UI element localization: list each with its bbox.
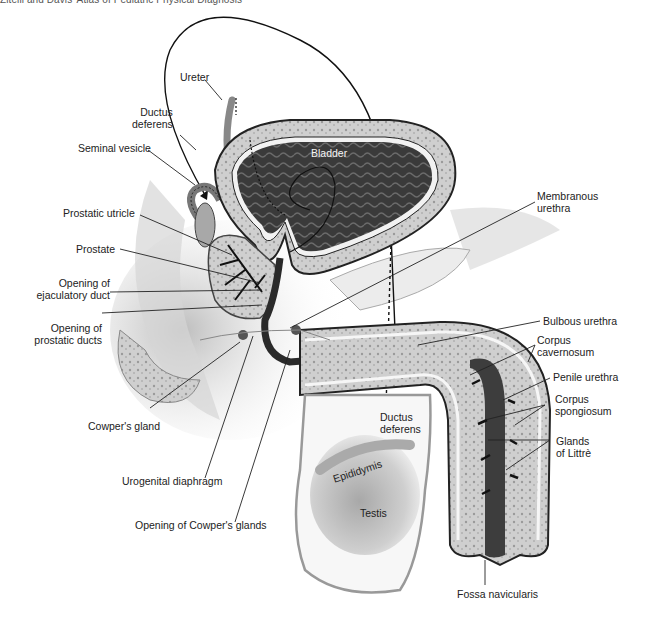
label-bladder: Bladder — [311, 147, 347, 159]
label-ductus-deferens-top: Ductusdeferens — [132, 106, 173, 130]
label-ureter: Ureter — [180, 71, 209, 83]
label-bulbous-urethra: Bulbous urethra — [543, 315, 617, 327]
label-seminal-vesicle: Seminal vesicle — [78, 142, 151, 154]
label-opening-prostatic-ducts: Opening ofprostatic ducts — [30, 322, 102, 346]
label-fossa-navicularis: Fossa navicularis — [457, 588, 538, 600]
label-prostatic-utricle: Prostatic utricle — [63, 207, 135, 219]
label-cowpers-gland: Cowper's gland — [88, 420, 160, 432]
label-urogenital-diaphragm: Urogenital diaphragm — [122, 475, 222, 487]
label-testis: Testis — [360, 507, 387, 519]
label-membranous-urethra: Membranousurethra — [537, 190, 598, 214]
label-glands-of-littre: Glandsof Littrè — [556, 435, 591, 459]
label-prostate: Prostate — [76, 243, 115, 255]
label-ductus-deferens-bottom: Ductusdeferens — [380, 411, 421, 435]
anatomy-illustration — [0, 0, 646, 620]
label-corpus-cavernosum: Corpuscavernosum — [537, 334, 594, 358]
label-penile-urethra: Penile urethra — [553, 371, 618, 383]
label-opening-ejaculatory-duct: Opening ofejaculatory duct — [34, 277, 110, 301]
label-corpus-spongiosum: Corpusspongiosum — [555, 393, 612, 417]
label-opening-cowpers-glands: Opening of Cowper's glands — [135, 519, 267, 531]
